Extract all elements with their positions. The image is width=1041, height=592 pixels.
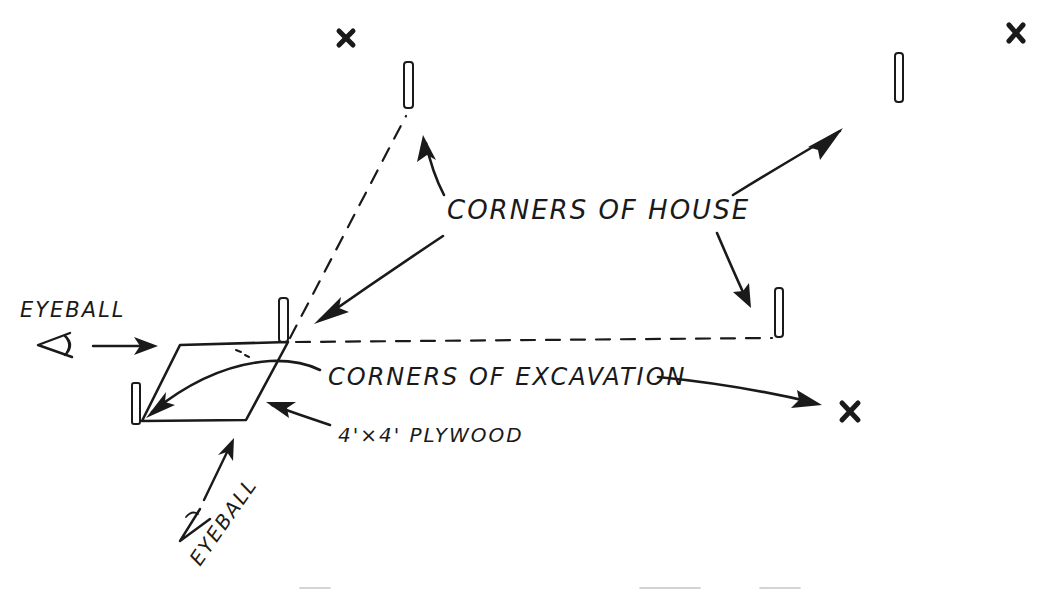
arrow-eyeball-left-to-plywood xyxy=(93,337,158,355)
label-eyeball-bottom: EYEBALL xyxy=(184,473,262,570)
eye-icon-left xyxy=(38,333,72,357)
arrow-to-plywood-left-stake xyxy=(146,361,320,418)
arrow-to-top-left-stake xyxy=(417,135,444,195)
site-layout-diagram: CORNERS OF HOUSE CORNERS OF EXCAVATION 4… xyxy=(0,0,1041,592)
sightline-horizontal xyxy=(296,338,772,342)
arrow-to-top-right-stake xyxy=(733,128,843,195)
arrow-to-plywood-corner-stake xyxy=(314,236,443,324)
stake-plywood-corner xyxy=(279,298,288,342)
excavation-corner-x-top-left xyxy=(339,31,353,45)
house-corner-stake-top-left xyxy=(404,62,413,108)
house-corner-stake-right xyxy=(775,288,783,337)
arrow-to-plywood-board xyxy=(266,402,330,425)
excavation-corner-x-top-right xyxy=(1009,25,1023,41)
plywood-mark xyxy=(236,350,249,357)
label-corners-of-house: CORNERS OF HOUSE xyxy=(447,195,750,225)
sightline-diagonal xyxy=(290,116,406,338)
label-eyeball-left: EYEBALL xyxy=(20,298,126,322)
label-plywood: 4'×4' PLYWOOD xyxy=(338,423,524,447)
house-corner-stake-top-right xyxy=(895,53,903,102)
arrow-to-right-stake xyxy=(717,233,751,308)
label-corners-of-excavation: CORNERS OF EXCAVATION xyxy=(328,363,687,391)
excavation-corner-x-bottom-right xyxy=(842,403,858,420)
stake-plywood-left xyxy=(132,383,140,424)
